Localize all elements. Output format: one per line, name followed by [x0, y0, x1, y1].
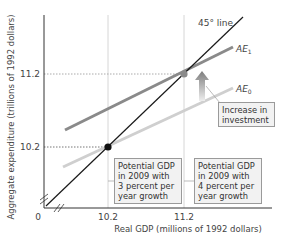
ae1-label: AE1 [235, 44, 252, 55]
equilibrium-point-high [180, 70, 187, 77]
x-tick-10-2: 10.2 [98, 212, 118, 222]
annotation-potential-gdp-3pct: Potential GDP in 2009 with 3 percent per… [114, 158, 182, 204]
y-tick-11-2: 11.2 [20, 69, 40, 79]
increase-arrow-icon [195, 71, 209, 101]
y-axis-title: Aggregate expenditure (trillions of 1992… [6, 14, 16, 219]
y-tick-10-2: 10.2 [20, 142, 40, 152]
origin-label: 0 [35, 212, 41, 222]
x-axis-title: Real GDP (millions of 1992 dollars) [114, 224, 262, 234]
equilibrium-point-low [104, 143, 111, 150]
ae0-line [63, 88, 233, 167]
ae0-label: AE0 [235, 84, 252, 95]
annotation-potential-gdp-4pct: Potential GDP in 2009 with 4 percent per… [194, 158, 262, 204]
45-line-label: 45° line [198, 18, 234, 28]
x-tick-11-2: 11.2 [174, 212, 194, 222]
annotation-increase-investment: Increase in investment [218, 102, 275, 127]
